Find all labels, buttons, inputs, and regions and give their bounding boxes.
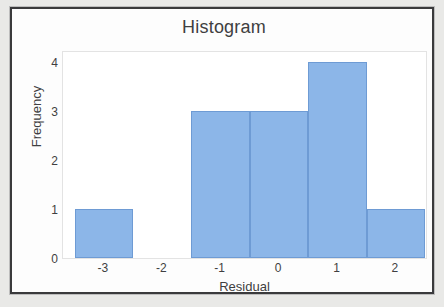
x-axis-tick-label: 2 <box>375 261 415 275</box>
x-axis-tick-label: -3 <box>83 261 123 275</box>
x-axis-tick-label: 1 <box>316 261 356 275</box>
plot-area <box>62 51 427 259</box>
histogram-bar <box>250 111 308 258</box>
x-axis-title: Residual <box>62 279 427 294</box>
histogram-bar <box>75 209 133 258</box>
x-axis-tick-label: 0 <box>258 261 298 275</box>
x-axis-tick-label: -2 <box>141 261 181 275</box>
histogram-bars <box>63 52 426 258</box>
scanned-page-background: Histogram Frequency 01234 -3-2-1012 Resi… <box>0 0 444 307</box>
chart-frame: Histogram Frequency 01234 -3-2-1012 Resi… <box>10 7 434 294</box>
x-axis-tick-labels: -3-2-1012 <box>62 261 427 281</box>
y-axis-tick-label: 3 <box>32 105 58 119</box>
y-axis-tick-label: 4 <box>32 56 58 70</box>
y-axis-tick-labels: 01234 <box>26 51 58 259</box>
y-axis-tick-label: 1 <box>32 203 58 217</box>
chart-title: Histogram <box>12 17 436 38</box>
x-axis-tick-label: -1 <box>200 261 240 275</box>
histogram-bar <box>308 62 366 258</box>
y-axis-tick-label: 2 <box>32 154 58 168</box>
histogram-bar <box>367 209 425 258</box>
histogram-bar <box>191 111 249 258</box>
y-axis-tick-label: 0 <box>32 252 58 266</box>
